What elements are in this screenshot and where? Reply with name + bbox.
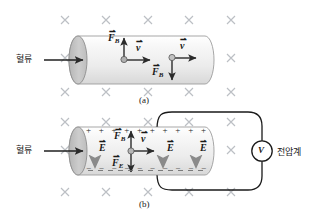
vec-arrow-glyph: ⇀ bbox=[167, 137, 174, 146]
minus-sign: − bbox=[188, 163, 193, 173]
plus-sign: + bbox=[86, 125, 91, 135]
plus-sign: + bbox=[163, 125, 168, 135]
plus-sign: + bbox=[188, 125, 193, 135]
vec-arrow-glyph: ⇀ bbox=[113, 152, 120, 161]
charge-carrier-a2 bbox=[169, 54, 175, 60]
caption-a: (a) bbox=[139, 95, 149, 105]
minus-sign: − bbox=[86, 163, 91, 173]
vec-sub: B bbox=[159, 71, 164, 79]
plus-sign: + bbox=[201, 125, 206, 135]
vec-sub: B bbox=[115, 37, 120, 45]
minus-sign: − bbox=[99, 163, 104, 173]
vector-label-fb-b: ⇀ FB bbox=[114, 130, 125, 143]
vec-arrow-glyph: ⇀ bbox=[200, 137, 207, 146]
plus-sign: + bbox=[99, 125, 104, 135]
vec-arrow-glyph: ⇀ bbox=[109, 27, 116, 36]
plus-sign: + bbox=[175, 125, 180, 135]
vector-label-e-b3: ⇀ E bbox=[200, 142, 207, 153]
minus-sign: − bbox=[124, 163, 129, 173]
vector-label-fe-b: ⇀ FE bbox=[112, 157, 123, 170]
vec-arrow-glyph: ⇀ bbox=[180, 35, 187, 44]
vec-arrow-glyph: ⇀ bbox=[136, 37, 143, 46]
vector-label-v-b: ⇀ v bbox=[141, 133, 145, 144]
figure-canvas bbox=[0, 0, 315, 223]
vec-sub: B bbox=[121, 135, 126, 143]
minus-sign: − bbox=[137, 163, 142, 173]
vector-label-v-a2: ⇀ v bbox=[180, 40, 184, 51]
minus-sign: − bbox=[201, 163, 206, 173]
flow-label-a: 혈류 bbox=[16, 52, 32, 65]
caption-b: (b) bbox=[139, 199, 150, 209]
vec-arrow-glyph: ⇀ bbox=[153, 61, 160, 70]
vector-label-fb-a2: ⇀ FB bbox=[152, 66, 163, 79]
vector-label-e-b1: ⇀ E bbox=[99, 142, 106, 153]
vec-arrow-glyph: ⇀ bbox=[141, 128, 148, 137]
vec-arrow-glyph: ⇀ bbox=[99, 137, 106, 146]
minus-sign: − bbox=[163, 163, 168, 173]
vec-arrow-glyph: ⇀ bbox=[115, 125, 122, 134]
vector-label-fb-a1: ⇀ FB bbox=[108, 32, 119, 45]
vector-label-v-a1: ⇀ v bbox=[136, 42, 140, 53]
physics-figure-hall-effect-blood-flow: 혈류 ⇀ FB ⇀ v ⇀ v ⇀ FB (a) 혈류 + + + + + + … bbox=[0, 0, 315, 223]
vector-label-e-b2: ⇀ E bbox=[167, 142, 174, 153]
charge-carrier-b bbox=[128, 148, 134, 154]
flow-label-b: 혈류 bbox=[16, 143, 32, 156]
charge-carrier-a1 bbox=[121, 56, 127, 62]
voltmeter-label: 전압계 bbox=[277, 145, 301, 158]
vec-sub: E bbox=[119, 162, 124, 170]
minus-sign: − bbox=[150, 163, 155, 173]
minus-charge-row: − − − − − − − − − − bbox=[86, 163, 206, 173]
voltmeter-symbol[interactable]: V bbox=[258, 145, 264, 155]
minus-sign: − bbox=[175, 163, 180, 173]
plus-sign: + bbox=[150, 125, 155, 135]
